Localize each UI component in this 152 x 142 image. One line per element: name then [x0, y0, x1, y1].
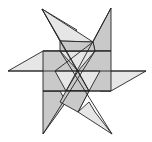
star-point-top-right — [93, 8, 111, 51]
pinwheel-star-diagram — [0, 0, 152, 142]
